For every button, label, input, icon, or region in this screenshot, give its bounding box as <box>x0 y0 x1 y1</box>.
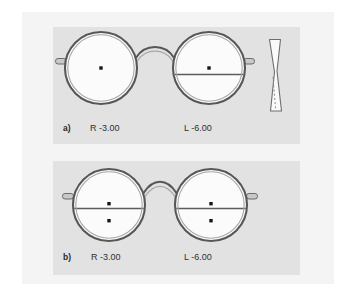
right-near-reference-dot <box>107 219 110 222</box>
right-temple-hinge-icon <box>63 194 74 200</box>
right-optical-center-dot <box>107 202 110 205</box>
panel-a-letter: a) <box>63 124 71 133</box>
left-eyewire-assembly <box>171 32 255 104</box>
right-eyewire-assembly <box>63 169 148 241</box>
left-optical-center-dot <box>207 66 210 69</box>
panel-b-right-eye-label: R -3.00 <box>91 253 121 262</box>
panel-b: b) R -3.00 L -6.00 <box>53 161 300 275</box>
bridge <box>136 47 174 61</box>
minus-lens-profile-icon <box>270 40 282 112</box>
bridge <box>144 182 177 197</box>
panel-a-left-eye-label: L -6.00 <box>184 124 212 133</box>
left-temple-hinge-icon <box>247 194 258 200</box>
panel-a-right-eye-label: R -3.00 <box>90 124 120 133</box>
left-optical-center-dot <box>209 202 212 205</box>
panel-b-left-eye-label: L -6.00 <box>184 253 212 262</box>
figure-root: a) R -3.00 L -6.00 <box>0 0 349 293</box>
right-optical-center-dot <box>99 66 102 69</box>
right-eyewire-assembly <box>56 32 138 104</box>
panel-b-letter: b) <box>63 253 71 262</box>
left-eyewire-assembly <box>173 169 258 241</box>
left-near-reference-dot <box>209 219 212 222</box>
panel-a: a) R -3.00 L -6.00 <box>53 27 300 144</box>
